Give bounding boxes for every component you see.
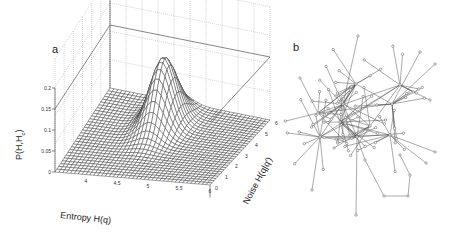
network-node	[349, 89, 351, 91]
network-node	[300, 99, 302, 101]
network-edge	[300, 78, 318, 113]
network-node	[363, 59, 365, 61]
network-node	[407, 195, 409, 197]
network-edge	[312, 137, 320, 190]
y-tick-label: 4	[255, 142, 258, 148]
network-node	[325, 65, 327, 67]
network-edge	[320, 137, 323, 169]
network-node	[383, 123, 385, 125]
x-tick-label: 4.5	[114, 180, 121, 186]
network-node	[380, 68, 382, 70]
network-nodes	[284, 35, 436, 216]
network-node	[394, 170, 396, 172]
surface-plot-panel: 00.050.10.150.244.555.560123456 a P(H,Hc…	[14, 0, 278, 225]
network-node	[429, 99, 431, 101]
network-node	[347, 150, 349, 152]
z-tick-label: 0.05	[41, 148, 51, 154]
network-node	[346, 142, 348, 144]
network-node	[369, 125, 371, 127]
network-node	[340, 113, 342, 115]
network-node	[330, 118, 332, 120]
network-edge	[285, 113, 318, 121]
network-node	[434, 63, 436, 65]
network-node	[335, 81, 337, 83]
network-node	[364, 159, 366, 161]
network-node	[319, 79, 321, 81]
network-node	[363, 86, 365, 88]
network-node	[409, 174, 411, 176]
network-node	[421, 86, 423, 88]
network-node	[369, 75, 371, 77]
network-node	[336, 92, 338, 94]
network-edge	[365, 160, 384, 196]
y-tick-label: 6	[275, 120, 278, 126]
x-tick-label: 5	[147, 183, 150, 189]
network-node	[394, 142, 396, 144]
network-node	[339, 108, 341, 110]
network-node	[403, 148, 405, 150]
network-node	[405, 96, 407, 98]
network-node	[412, 91, 414, 93]
network-node	[376, 132, 378, 134]
network-node	[342, 95, 344, 97]
network-edge	[301, 100, 320, 137]
network-edge	[390, 135, 404, 149]
network-node	[350, 86, 352, 88]
network-node	[294, 163, 296, 165]
network-node	[349, 154, 351, 156]
network-node	[339, 121, 341, 123]
network-node	[311, 189, 313, 191]
network-node	[434, 151, 436, 153]
network-edge	[375, 135, 390, 143]
network-edge	[400, 85, 419, 89]
network-node	[342, 133, 344, 135]
network-node	[327, 121, 329, 123]
network-node	[399, 154, 401, 156]
network-node	[311, 100, 313, 102]
network-node	[374, 142, 376, 144]
y-axis-label: Noise H(q|q')	[241, 155, 274, 206]
network-node	[355, 83, 357, 85]
network-edge	[299, 132, 320, 137]
network-node	[315, 114, 317, 116]
network-node	[384, 119, 386, 121]
network-node	[323, 136, 325, 138]
network-node	[391, 103, 393, 105]
network-node	[356, 136, 358, 138]
network-node	[336, 102, 338, 104]
network-node	[355, 214, 357, 216]
network-node	[395, 137, 397, 139]
network-node	[362, 95, 364, 97]
y-tick-label: 3	[245, 153, 248, 159]
network-node	[299, 77, 301, 79]
network-edge	[318, 92, 320, 113]
network-node	[357, 116, 359, 118]
network-edge	[295, 137, 320, 164]
network-node	[322, 168, 324, 170]
z-tick-label: 0	[48, 169, 51, 175]
network-node	[392, 45, 394, 47]
network-node	[325, 99, 327, 101]
network-node	[323, 121, 325, 123]
network-node	[389, 134, 391, 136]
network-node	[401, 53, 403, 55]
network-edge	[336, 82, 356, 84]
network-node	[350, 134, 352, 136]
network-node	[399, 84, 401, 86]
network-edge	[287, 133, 320, 137]
network-node	[319, 136, 321, 138]
y-tick-label: 0	[215, 185, 218, 191]
grid-line	[55, 3, 110, 87]
z-tick-label: 0.15	[41, 106, 51, 112]
network-node	[408, 92, 410, 94]
network-edge	[390, 135, 395, 171]
network-node	[332, 48, 334, 50]
network-node	[419, 51, 421, 53]
network-node	[319, 90, 321, 92]
network-node	[415, 92, 417, 94]
network-node	[425, 162, 427, 164]
network-edge	[320, 100, 326, 137]
z-tick-label: 0.1	[44, 127, 51, 133]
network-node	[357, 149, 359, 151]
y-tick-label: 1	[225, 174, 228, 180]
